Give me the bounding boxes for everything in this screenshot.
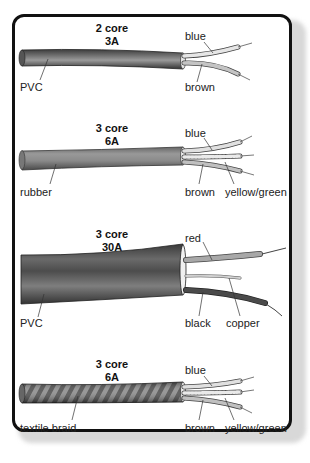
sheath-label: PVC xyxy=(20,81,43,93)
wire-label-brown: brown xyxy=(185,186,215,198)
cable-panel-3core-6a-rubber: 3 core 6A blue brown yellow/green rubber xyxy=(0,110,310,220)
wire-label-black: black xyxy=(185,317,211,329)
cable-panel-3core-30a: 3 core 30A red black copper PVC xyxy=(0,220,310,340)
wire-label-brown: brown xyxy=(185,422,215,434)
cable-30a-illustration xyxy=(0,220,310,340)
wire-label-brown: brown xyxy=(185,81,215,93)
wire-label-blue: blue xyxy=(185,30,206,42)
cable-2core-illustration xyxy=(0,0,310,110)
sheath-label: PVC xyxy=(20,317,43,329)
wire-label-blue: blue xyxy=(185,127,206,139)
wire-label-red: red xyxy=(185,232,201,244)
wire-label-blue: blue xyxy=(185,364,206,376)
wire-label-copper: copper xyxy=(226,317,260,329)
wire-label-yellow-green: yellow/green xyxy=(225,422,287,434)
sheath-label: rubber xyxy=(20,186,52,198)
sheath-label: textile braid xyxy=(20,422,76,434)
cable-rubber-illustration xyxy=(0,110,310,220)
cable-panel-textile-braid: 3 core 6A blue xyxy=(0,340,310,450)
cable-panel-2core-3a: 2 core 3A blue brown PVC xyxy=(0,0,310,110)
wire-label-yellow-green: yellow/green xyxy=(225,186,287,198)
